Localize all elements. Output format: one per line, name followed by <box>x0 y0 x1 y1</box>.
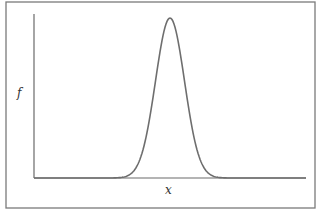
figure-frame <box>6 2 315 208</box>
y-axis-label: f <box>17 86 21 100</box>
figure-canvas <box>0 0 321 211</box>
x-axis-label: x <box>165 183 172 197</box>
bell-curve <box>34 18 306 178</box>
